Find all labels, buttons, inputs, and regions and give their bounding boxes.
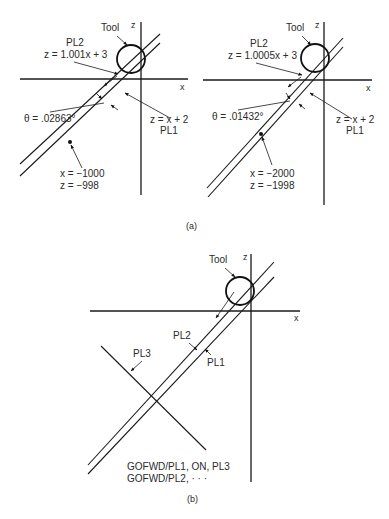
pl1-name: PL1 <box>207 357 225 368</box>
z-axis-label: z <box>315 20 320 30</box>
theta-arrow-top <box>96 93 102 99</box>
pl2-name: PL2 <box>66 37 84 48</box>
diagram-canvas: x z Tool PL2 z = 1.001x + 3 θ = .02863° … <box>0 0 389 519</box>
intersection-x: x = −2000 <box>250 168 295 179</box>
intersection-z: z = −1998 <box>250 180 295 191</box>
x-axis-label: x <box>294 313 299 323</box>
theta-label: θ = .01432° <box>212 111 264 122</box>
intersection-z: z = −998 <box>60 180 99 191</box>
pl1-equation: z = x + 2 <box>336 114 375 125</box>
tool-leader <box>302 36 311 45</box>
pl2-equation: z = 1.001x + 3 <box>44 49 108 60</box>
theta-arrow-bottom <box>111 105 118 110</box>
z-axis-label: z <box>243 252 248 262</box>
tool-circle <box>226 277 254 305</box>
pl2-leader <box>256 63 302 75</box>
panel-a-right: x z Tool PL2 z = 1.0005x + 3 θ = .01432°… <box>203 20 375 205</box>
z-axis-label: z <box>131 20 136 30</box>
intersection-leader <box>262 137 272 165</box>
tool-leader <box>117 36 127 45</box>
pl3-leader <box>131 361 142 371</box>
panel-a-left: x z Tool PL2 z = 1.001x + 3 θ = .02863° … <box>20 20 189 195</box>
x-axis-label: x <box>180 82 185 92</box>
pl1-name: PL1 <box>346 125 364 136</box>
tool-label: Tool <box>101 22 119 33</box>
pl2-leader <box>74 62 118 74</box>
theta-arrow-bottom <box>299 104 305 109</box>
caption-b: (b) <box>187 494 198 504</box>
retract-arrow <box>216 292 234 318</box>
pl1-line <box>20 43 160 176</box>
pl3-name: PL3 <box>133 348 151 359</box>
command-1: GOFWD/PL1, ON, PL3 <box>127 461 230 472</box>
panel-b: x z Tool PL2 PL1 PL3 GOFWD/PL1, ON, PL3 … <box>88 252 300 484</box>
pl1-name: PL1 <box>160 125 178 136</box>
pl2-name: PL2 <box>173 330 191 341</box>
pl2-line <box>88 262 274 465</box>
pl2-name: PL2 <box>250 38 268 49</box>
intersection-point <box>68 140 72 144</box>
pl2-leader <box>189 343 197 350</box>
pl2-equation: z = 1.0005x + 3 <box>228 50 297 61</box>
tool-leader <box>225 268 235 277</box>
x-axis-label: x <box>366 83 371 93</box>
tool-label: Tool <box>209 254 227 265</box>
intersection-x: x = −1000 <box>60 168 105 179</box>
offset-arrow <box>104 76 117 86</box>
caption-a: (a) <box>186 221 197 231</box>
tool-label: Tool <box>286 22 304 33</box>
pl1-line <box>88 277 274 474</box>
pl1-leader <box>205 349 211 355</box>
intersection-point <box>259 132 263 136</box>
intersection-leader <box>71 145 82 168</box>
command-2: GOFWD/PL2, · · · <box>127 473 207 484</box>
theta-label: θ = .02863° <box>24 113 76 124</box>
pl1-equation: z = x + 2 <box>150 114 189 125</box>
offset-arrow <box>288 77 301 87</box>
